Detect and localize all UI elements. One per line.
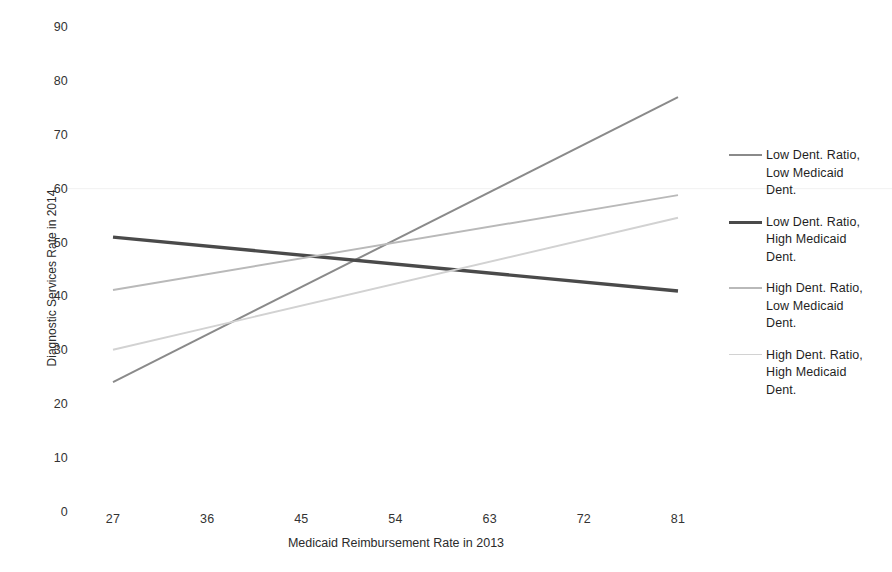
series-line-3 bbox=[113, 195, 678, 290]
legend-line-swatch-icon bbox=[729, 221, 762, 224]
legend-entry[interactable]: Low Dent. Ratio, Low Medicaid Dent. bbox=[729, 147, 892, 200]
legend-label: High Dent. Ratio, High Medicaid Dent. bbox=[766, 347, 892, 400]
legend-line-swatch-icon bbox=[729, 287, 762, 289]
legend-entry[interactable]: High Dent. Ratio, High Medicaid Dent. bbox=[729, 347, 892, 400]
legend-label: High Dent. Ratio, Low Medicaid Dent. bbox=[766, 280, 892, 333]
legend-line-swatch-icon bbox=[729, 354, 762, 356]
legend-entry[interactable]: High Dent. Ratio, Low Medicaid Dent. bbox=[729, 280, 892, 333]
series-line-1 bbox=[113, 97, 678, 382]
legend-label: Low Dent. Ratio, Low Medicaid Dent. bbox=[766, 147, 892, 200]
interaction-plot-figure: Diagnostic Services Rate in 2014 0102030… bbox=[0, 0, 892, 572]
legend-entry[interactable]: Low Dent. Ratio, High Medicaid Dent. bbox=[729, 214, 892, 267]
legend-line-swatch-icon bbox=[729, 154, 762, 156]
legend-label: Low Dent. Ratio, High Medicaid Dent. bbox=[766, 214, 892, 267]
legend: Low Dent. Ratio, Low Medicaid Dent.Low D… bbox=[729, 147, 892, 413]
